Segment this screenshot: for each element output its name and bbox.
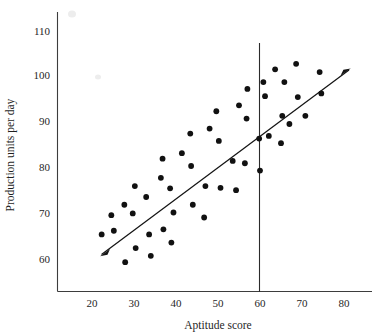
data-point	[122, 259, 128, 265]
data-point	[179, 150, 185, 156]
data-point	[293, 61, 299, 67]
data-point	[230, 158, 236, 164]
data-points-layer	[99, 61, 324, 265]
data-point	[218, 185, 224, 191]
data-point	[213, 108, 219, 114]
data-point	[187, 131, 193, 137]
x-tick-label-20: 20	[87, 297, 99, 309]
data-point	[160, 156, 166, 162]
data-point	[167, 185, 173, 191]
data-point	[168, 240, 174, 246]
x-tick-label-80: 80	[339, 297, 351, 309]
x-tick-label-60: 60	[255, 297, 267, 309]
data-point	[279, 113, 285, 119]
regression-line	[102, 70, 350, 255]
data-point	[281, 79, 287, 85]
data-point	[158, 175, 164, 181]
scatter-plot-figure: 110 100 90 80 70 60 20 30 40 50 60 70 80…	[0, 0, 374, 336]
data-point	[130, 211, 136, 217]
data-point	[146, 231, 152, 237]
y-tick-label-70: 70	[39, 207, 51, 219]
data-point	[317, 69, 323, 75]
data-point	[188, 163, 194, 169]
data-point	[262, 93, 268, 99]
data-point	[256, 136, 262, 142]
data-point	[203, 183, 209, 189]
data-point	[318, 91, 324, 97]
data-point	[133, 245, 139, 251]
y-tick-label-100: 100	[34, 69, 51, 81]
data-point	[148, 253, 154, 259]
x-axis-title: Aptitude score	[184, 319, 251, 332]
data-point	[266, 133, 272, 139]
y-tick-label-80: 80	[39, 161, 51, 173]
data-point	[216, 138, 222, 144]
x-tick-label-50: 50	[213, 297, 225, 309]
data-point	[171, 210, 177, 216]
data-point	[244, 116, 250, 122]
data-point	[295, 94, 301, 100]
data-point	[272, 66, 278, 72]
data-point	[257, 168, 263, 174]
scan-speck	[95, 75, 101, 80]
data-point	[108, 212, 114, 218]
data-point	[242, 160, 248, 166]
data-point	[278, 140, 284, 146]
x-tick-label-70: 70	[297, 297, 309, 309]
data-point	[245, 86, 251, 92]
data-point	[143, 194, 149, 200]
data-point	[201, 215, 207, 221]
data-point	[99, 231, 105, 237]
x-tick-label-40: 40	[171, 297, 183, 309]
data-point	[236, 102, 242, 108]
y-tick-label-110: 110	[34, 25, 51, 37]
data-point	[302, 113, 308, 119]
scan-speck	[68, 11, 76, 18]
data-point	[111, 228, 117, 234]
data-point	[190, 202, 196, 208]
data-point	[260, 79, 266, 85]
x-tick-label-30: 30	[129, 297, 141, 309]
data-point	[287, 121, 293, 127]
data-point	[207, 126, 213, 132]
data-point	[121, 202, 127, 208]
y-tick-label-60: 60	[39, 253, 51, 265]
scatter-plot-canvas: 110 100 90 80 70 60 20 30 40 50 60 70 80…	[0, 0, 374, 336]
data-point	[233, 187, 239, 193]
regression-line-arrowhead-left	[100, 249, 110, 256]
data-point	[132, 183, 138, 189]
y-tick-label-90: 90	[39, 115, 51, 127]
data-point	[161, 226, 167, 232]
y-axis-title: Production units per day	[4, 98, 17, 211]
